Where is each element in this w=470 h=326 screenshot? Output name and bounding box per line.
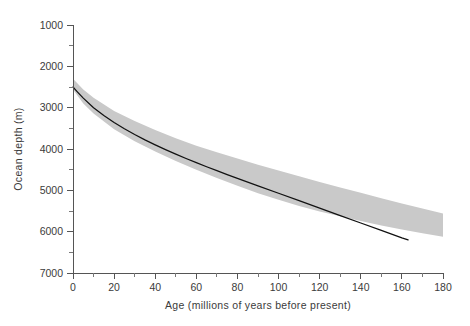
x-tick-label: 20: [108, 281, 120, 293]
uncertainty-band: [73, 79, 443, 237]
y-tick-label: 7000: [40, 267, 64, 279]
x-tick-label: 120: [311, 281, 329, 293]
x-tick-label: 140: [352, 281, 370, 293]
x-tick-label: 100: [270, 281, 288, 293]
ocean-depth-vs-age-plot: 1000200030004000500060007000 02040608010…: [0, 0, 470, 326]
y-tick-label: 3000: [40, 101, 64, 113]
x-axis-title: Age (millions of years before present): [165, 299, 351, 311]
y-tick-label: 4000: [40, 143, 64, 155]
x-axis-ticks: [73, 273, 443, 279]
x-tick-label: 60: [190, 281, 202, 293]
x-tick-label: 40: [149, 281, 161, 293]
x-tick-label: 80: [232, 281, 244, 293]
y-tick-label: 2000: [40, 60, 64, 72]
y-tick-label: 1000: [40, 19, 64, 31]
x-tick-label: 0: [70, 281, 76, 293]
y-tick-label: 6000: [40, 225, 64, 237]
x-tick-label: 160: [393, 281, 411, 293]
y-axis-title: Ocean depth (m): [12, 107, 24, 190]
y-axis-tick-labels: 1000200030004000500060007000: [40, 19, 64, 279]
x-tick-label: 180: [434, 281, 452, 293]
chart-figure: 1000200030004000500060007000 02040608010…: [0, 0, 470, 326]
y-tick-label: 5000: [40, 184, 64, 196]
y-axis-ticks: [67, 25, 73, 273]
x-axis-tick-labels: 020406080100120140160180: [70, 281, 452, 293]
